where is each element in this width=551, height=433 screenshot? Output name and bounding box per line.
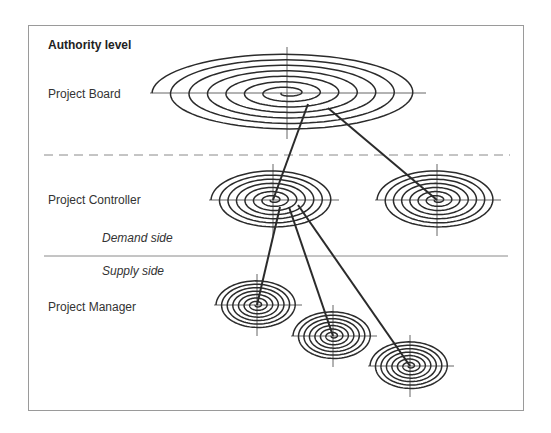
spiral-icon bbox=[152, 54, 413, 129]
spiral-node-manager-2 bbox=[291, 305, 377, 367]
link-board-to-controller-2 bbox=[328, 108, 437, 200]
level-label-project-controller: Project Controller bbox=[48, 193, 141, 207]
level-label-project-board: Project Board bbox=[48, 87, 121, 101]
level-label-project-manager: Project Manager bbox=[48, 300, 136, 314]
axis-title: Authority level bbox=[48, 38, 131, 52]
spiral-node-controller-2 bbox=[375, 164, 501, 236]
spiral-nodes bbox=[150, 47, 501, 397]
spiral-icon bbox=[216, 281, 295, 328]
demand-side-label: Demand side bbox=[102, 231, 173, 245]
spiral-icon bbox=[211, 171, 331, 227]
spiral-icon bbox=[293, 312, 370, 359]
link-controller-1-to-manager-2 bbox=[289, 207, 333, 336]
spiral-node-board bbox=[150, 47, 426, 139]
authority-links bbox=[257, 104, 437, 366]
diagram-canvas bbox=[0, 0, 551, 433]
supply-side-label: Supply side bbox=[102, 264, 164, 278]
spiral-node-manager-3 bbox=[368, 335, 454, 397]
